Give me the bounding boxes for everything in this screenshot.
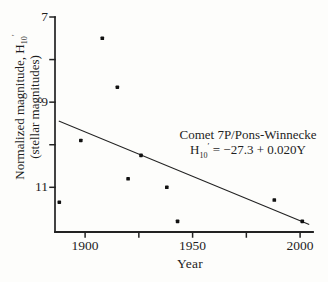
data-point [273,198,277,202]
data-point [139,154,143,158]
data-point [101,36,105,40]
x-tick-label: 1900 [72,239,99,253]
data-point [79,139,83,143]
x-tick-label: 2000 [287,239,314,253]
comet-magnitude-figure: Normalized magnitude, H10′ (stellar magn… [0,0,328,282]
data-point [300,220,304,224]
y-tick-label: 7 [16,10,48,24]
y-tick-label: 11 [16,180,48,194]
data-point [58,200,62,204]
data-point [176,220,180,224]
data-point [126,177,130,181]
y-tick-label: 9 [16,95,48,109]
data-point [116,85,120,89]
annotation-equation: H10′ = −27.3 + 0.020Y [179,143,316,158]
data-point [165,185,169,189]
x-axis-label: Year [177,256,203,272]
annotation: Comet 7P/Pons-Winnecke H10′ = −27.3 + 0.… [179,128,316,157]
annotation-comet-name: Comet 7P/Pons-Winnecke [179,128,316,143]
x-tick-label: 1950 [179,239,206,253]
